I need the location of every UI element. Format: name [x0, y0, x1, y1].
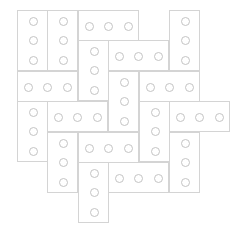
stud-icon — [115, 52, 124, 61]
stud-icon — [151, 147, 160, 156]
stud-icon — [59, 158, 68, 167]
stud-icon — [181, 17, 190, 26]
stud-icon — [90, 169, 99, 178]
stud-icon — [115, 174, 124, 183]
stud-icon — [151, 108, 160, 117]
stud-icon — [73, 113, 82, 122]
puzzle-piece-vertical[interactable] — [17, 101, 48, 162]
stud-icon — [104, 144, 113, 153]
puzzle-piece-vertical[interactable] — [78, 40, 109, 101]
stud-icon — [124, 22, 133, 31]
stud-icon — [59, 139, 68, 148]
puzzle-piece-horizontal[interactable] — [139, 71, 200, 102]
stud-icon — [29, 17, 38, 26]
stud-icon — [59, 36, 68, 45]
stud-icon — [181, 36, 190, 45]
puzzle-board — [17, 10, 230, 220]
stud-icon — [24, 83, 33, 92]
stud-icon — [85, 144, 94, 153]
stud-icon — [104, 22, 113, 31]
stud-icon — [181, 178, 190, 187]
stud-icon — [134, 174, 143, 183]
stud-icon — [120, 78, 129, 87]
puzzle-piece-horizontal[interactable] — [17, 71, 78, 102]
stud-icon — [176, 113, 185, 122]
puzzle-piece-vertical[interactable] — [169, 132, 200, 193]
stud-icon — [90, 66, 99, 75]
stud-icon — [59, 56, 68, 65]
stud-icon — [165, 83, 174, 92]
stud-icon — [85, 22, 94, 31]
stud-icon — [181, 139, 190, 148]
stud-icon — [59, 178, 68, 187]
stud-icon — [29, 36, 38, 45]
stud-icon — [90, 86, 99, 95]
stud-icon — [90, 188, 99, 197]
stud-icon — [134, 52, 143, 61]
puzzle-piece-horizontal[interactable] — [78, 132, 139, 163]
stud-icon — [215, 113, 224, 122]
stud-icon — [29, 127, 38, 136]
stud-icon — [54, 113, 63, 122]
puzzle-piece-horizontal[interactable] — [47, 101, 108, 132]
puzzle-piece-vertical[interactable] — [47, 132, 78, 193]
puzzle-piece-vertical[interactable] — [47, 10, 78, 71]
stud-icon — [195, 113, 204, 122]
puzzle-piece-horizontal[interactable] — [108, 162, 169, 193]
stud-icon — [146, 83, 155, 92]
stud-icon — [120, 97, 129, 106]
stud-icon — [63, 83, 72, 92]
puzzle-piece-horizontal[interactable] — [108, 40, 169, 71]
stud-icon — [154, 52, 163, 61]
stud-icon — [43, 83, 52, 92]
stud-icon — [151, 127, 160, 136]
stud-icon — [29, 108, 38, 117]
puzzle-piece-horizontal[interactable] — [78, 10, 139, 41]
stud-icon — [181, 56, 190, 65]
puzzle-piece-vertical[interactable] — [169, 10, 200, 71]
stud-icon — [124, 144, 133, 153]
puzzle-piece-vertical[interactable] — [108, 71, 139, 132]
puzzle-piece-horizontal[interactable] — [169, 101, 230, 132]
stud-icon — [93, 113, 102, 122]
stud-icon — [90, 208, 99, 217]
stud-icon — [90, 47, 99, 56]
stud-icon — [29, 56, 38, 65]
puzzle-piece-vertical[interactable] — [17, 10, 48, 71]
stud-icon — [185, 83, 194, 92]
stud-icon — [59, 17, 68, 26]
stud-icon — [181, 158, 190, 167]
puzzle-piece-vertical[interactable] — [78, 162, 109, 223]
puzzle-piece-vertical[interactable] — [139, 101, 170, 162]
stud-icon — [29, 147, 38, 156]
stud-icon — [120, 117, 129, 126]
stud-icon — [154, 174, 163, 183]
